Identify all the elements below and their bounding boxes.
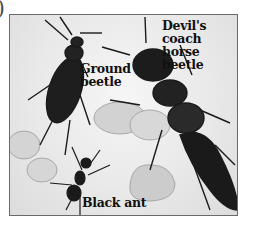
partial-parenthesis-marker: ) [0,0,5,20]
label-ground-line2: beetle [80,75,131,88]
pebbles [10,102,175,201]
label-devils-line1: Devil's coach [162,19,237,45]
label-black-ant: Black ant [82,196,146,209]
label-ground-beetle: Ground beetle [80,62,131,88]
label-devils-line2: horse beetle [162,45,237,71]
illustration-frame: Devil's coach horse beetle Ground beetle… [9,14,238,216]
label-devils-coach-horse-beetle: Devil's coach horse beetle [162,19,237,71]
